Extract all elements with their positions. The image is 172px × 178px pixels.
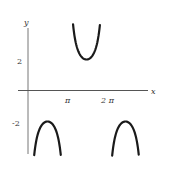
y-tick-label-2: 2 xyxy=(17,57,22,66)
x-tick-label-2pi: 2 π xyxy=(100,96,115,105)
curve-series xyxy=(34,24,139,155)
branch-1-curve xyxy=(34,122,61,156)
plot-area: y x 2 -2 π 2 π xyxy=(0,0,172,178)
branch-2-curve xyxy=(73,24,100,59)
y-axis-label: y xyxy=(23,18,29,27)
x-axis-label: x xyxy=(151,87,156,96)
x-tick-label-pi: π xyxy=(64,96,71,105)
branch-3-curve xyxy=(112,122,139,156)
y-tick-label-neg2: -2 xyxy=(12,119,20,128)
